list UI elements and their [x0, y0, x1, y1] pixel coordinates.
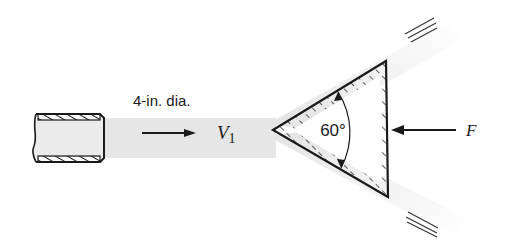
- jet-wedge-diagram: 4-in. dia. V1 60° F: [0, 0, 506, 251]
- nozzle-pipe: [33, 114, 104, 162]
- force-arrow: [391, 125, 456, 135]
- angle-label: 60°: [320, 121, 346, 140]
- incoming-jet: [100, 118, 276, 158]
- diameter-label: 4-in. dia.: [133, 92, 191, 109]
- force-label: F: [465, 121, 477, 140]
